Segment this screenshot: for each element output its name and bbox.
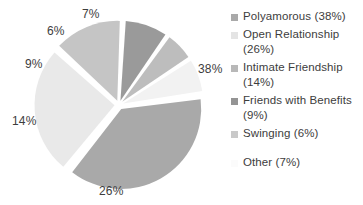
legend-swatch-icon bbox=[231, 65, 238, 72]
slice-label-polyamorous: 38% bbox=[198, 62, 223, 76]
legend-swatch-icon bbox=[231, 160, 238, 167]
legend-item-label: Swinging (6%) bbox=[243, 126, 318, 142]
legend-swatch-icon bbox=[231, 32, 238, 39]
legend-item-intimate-friendship: Intimate Friendship (14%) bbox=[231, 60, 363, 91]
pie-svg bbox=[0, 0, 228, 205]
legend-item-label: Friends with Benefits (9%) bbox=[243, 93, 363, 124]
slice-label-friends-with-benefits: 9% bbox=[25, 57, 43, 71]
pie-chart: 38% 26% 14% 9% 6% 7% Polyamorous (38%) O… bbox=[0, 0, 363, 205]
slice-label-open-relationship: 26% bbox=[99, 184, 124, 198]
slice-label-intimate-friendship: 14% bbox=[12, 114, 37, 128]
slice-label-other: 7% bbox=[82, 7, 100, 21]
legend-item-label: Open Relationship (26%) bbox=[243, 27, 363, 58]
legend-swatch-icon bbox=[231, 131, 238, 138]
legend-swatch-icon bbox=[231, 98, 238, 105]
legend-item-label: Other (7%) bbox=[243, 155, 300, 171]
legend-item-label: Intimate Friendship (14%) bbox=[243, 60, 363, 91]
chart-legend: Polyamorous (38%) Open Relationship (26%… bbox=[231, 9, 363, 173]
slice-label-swinging: 6% bbox=[47, 24, 65, 38]
legend-swatch-icon bbox=[231, 14, 238, 21]
legend-item-open-relationship: Open Relationship (26%) bbox=[231, 27, 363, 58]
legend-item-swinging: Swinging (6%) bbox=[231, 126, 363, 142]
legend-item-friends-with-benefits: Friends with Benefits (9%) bbox=[231, 93, 363, 124]
legend-item-polyamorous: Polyamorous (38%) bbox=[231, 9, 363, 25]
pie-plot-area: 38% 26% 14% 9% 6% 7% bbox=[0, 0, 228, 205]
legend-item-other: Other (7%) bbox=[231, 155, 363, 171]
legend-item-label: Polyamorous (38%) bbox=[243, 9, 346, 25]
